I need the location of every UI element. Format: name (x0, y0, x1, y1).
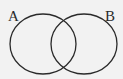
set-a-label: A (8, 8, 19, 24)
set-b-label: B (105, 8, 115, 24)
set-a-circle (10, 14, 76, 74)
venn-svg: A B (0, 0, 123, 79)
venn-diagram: A B (0, 0, 123, 79)
